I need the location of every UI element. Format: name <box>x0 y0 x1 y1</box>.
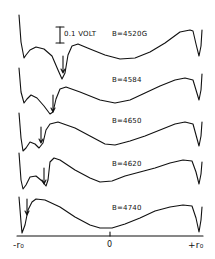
trace-b4620 <box>19 153 202 189</box>
trace-b4740 <box>19 197 202 233</box>
trace-label-b4620: B=4620 <box>112 160 142 168</box>
plot-area <box>0 0 215 259</box>
arrow-icon <box>61 56 65 73</box>
x-tick-label-zero: 0 <box>107 240 112 249</box>
x-tick-label-neg-r0: -r₀ <box>13 240 24 250</box>
x-tick-label-pos-r0: +r₀ <box>188 240 203 250</box>
arrow-icon <box>39 127 43 143</box>
trace-label-b4520: B=4520G <box>112 30 147 38</box>
scale-bar-label: 0.1 VOLT <box>64 30 96 38</box>
scale-bar-icon <box>56 27 64 43</box>
trace-b4650 <box>19 113 202 151</box>
trace-b4520 <box>19 15 202 79</box>
arrow-icon <box>25 199 29 215</box>
trace-label-b4740: B=4740 <box>112 204 142 212</box>
trace-label-b4650: B=4650 <box>112 117 142 125</box>
trace-b4584 <box>19 68 202 114</box>
trace-label-b4584: B=4584 <box>112 76 142 84</box>
arrow-icon <box>42 168 46 184</box>
